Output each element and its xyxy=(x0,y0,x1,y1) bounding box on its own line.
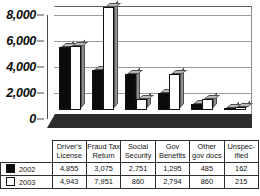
y-axis-line xyxy=(47,15,48,119)
bar-2002-other-gov-docs xyxy=(191,104,202,110)
y-tick-label: 8,000 xyxy=(6,8,36,22)
table-cell-value: 2,751 xyxy=(121,163,155,176)
table-cell-value: 215 xyxy=(224,176,258,189)
legend-item-2003[interactable]: 2003 xyxy=(1,176,53,189)
bar-top-face xyxy=(105,3,121,7)
table-cell-value: 1,295 xyxy=(155,163,189,176)
table-cell-value: 860 xyxy=(121,176,155,189)
bar-top-face xyxy=(127,70,143,74)
bar-front-face xyxy=(136,99,147,110)
table-cell-value: 4,943 xyxy=(52,176,86,189)
bar-top-face xyxy=(204,95,220,99)
bar-group xyxy=(92,0,114,110)
bar-front-face xyxy=(169,74,180,110)
legend-swatch-icon xyxy=(6,177,15,186)
table-header-row: Driver'sLicenseFraud TaxReturnSocialSecu… xyxy=(1,141,259,163)
legend-swatch-icon xyxy=(6,164,15,173)
table-column-header: Othergov docs xyxy=(190,141,224,163)
bar-group xyxy=(191,0,213,110)
bar-group xyxy=(224,0,246,110)
bar-2003-social-security xyxy=(136,99,147,110)
category-label-line: Benefits xyxy=(156,152,189,161)
table-row: 20034,9437,9518602,794860215 xyxy=(1,176,259,189)
category-label-line: ified xyxy=(225,152,258,161)
table-legend-corner xyxy=(1,141,53,163)
bar-top-face xyxy=(237,103,253,107)
bar-2002-gov-benefits xyxy=(158,93,169,110)
category-label-line: gov docs xyxy=(190,152,223,161)
y-tick-mark xyxy=(37,41,44,42)
table-row: 20024,8553,0752,7511,295485162 xyxy=(1,163,259,176)
table-cell-value: 4,855 xyxy=(52,163,86,176)
table-column-header: Unspec-ified xyxy=(224,141,258,163)
bar-2003-other-gov-docs xyxy=(202,99,213,110)
bar-front-face xyxy=(70,46,81,110)
y-tick-label: 0 xyxy=(29,112,36,126)
table-column-header: SocialSecurity xyxy=(121,141,155,163)
legend-item-2002[interactable]: 2002 xyxy=(1,163,53,176)
bar-group xyxy=(158,0,180,110)
bar-front-face xyxy=(125,74,136,110)
table-column-header: Driver'sLicense xyxy=(52,141,86,163)
bar-side-face xyxy=(114,0,118,108)
y-tick-label: 4,000 xyxy=(6,60,36,74)
y-tick-label: 6,000 xyxy=(6,34,36,48)
bar-2002-fraud-tax-return xyxy=(92,70,103,110)
bar-front-face xyxy=(202,99,213,110)
bar-2003-driver-s-license xyxy=(70,46,81,110)
bar-2003-gov-benefits xyxy=(169,74,180,110)
bar-2002-unspecified xyxy=(224,108,235,110)
table-cell-value: 7,951 xyxy=(86,176,120,189)
bar-front-face xyxy=(92,70,103,110)
bar-front-face xyxy=(59,47,70,110)
category-label-line: License xyxy=(53,152,86,161)
bar-2003-fraud-tax-return xyxy=(103,7,114,110)
table-cell-value: 3,075 xyxy=(86,163,120,176)
data-table: Driver'sLicenseFraud TaxReturnSocialSecu… xyxy=(0,140,259,189)
table-cell-value: 162 xyxy=(224,163,258,176)
legend-series-label: 2002 xyxy=(19,165,35,174)
table-cell-value: 860 xyxy=(190,176,224,189)
bar-front-face xyxy=(103,7,114,110)
bar-groups xyxy=(54,6,252,119)
legend-series-label: 2003 xyxy=(19,178,35,187)
bar-2002-social-security xyxy=(125,74,136,110)
bar-front-face xyxy=(158,93,169,110)
bar-2003-unspecified xyxy=(235,107,246,110)
table-cell-value: 2,794 xyxy=(155,176,189,189)
bar-side-face xyxy=(81,39,85,108)
y-tick-mark xyxy=(37,67,44,68)
bar-group xyxy=(125,0,147,110)
bar-front-face xyxy=(224,108,235,110)
y-tick-mark xyxy=(37,119,44,120)
bar-top-face xyxy=(171,70,187,74)
category-label-line: Security xyxy=(121,152,154,161)
y-tick-label: 2,000 xyxy=(6,86,36,100)
y-tick-mark xyxy=(37,15,44,16)
category-label-line: Return xyxy=(87,152,120,161)
y-tick-mark xyxy=(37,93,44,94)
bar-2002-driver-s-license xyxy=(59,47,70,110)
bar-group xyxy=(59,0,81,110)
bar-front-face xyxy=(235,107,246,110)
bar-chart: 02,0004,0006,0008,000 Driver'sLicenseFra… xyxy=(0,0,260,196)
table-column-header: Fraud TaxReturn xyxy=(86,141,120,163)
table-column-header: GovBenefits xyxy=(155,141,189,163)
bar-front-face xyxy=(191,104,202,110)
plot-area xyxy=(47,6,252,128)
table-cell-value: 485 xyxy=(190,163,224,176)
y-axis: 02,0004,0006,0008,000 xyxy=(0,0,46,140)
